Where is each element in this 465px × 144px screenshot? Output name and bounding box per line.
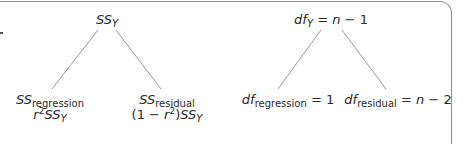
ss-sub: Y <box>196 113 202 124</box>
ss-left-branch <box>52 30 98 89</box>
ss-regression-var: SS <box>16 92 32 107</box>
df-right-branch <box>342 30 386 89</box>
equals: = <box>313 12 332 27</box>
tree-connector-lines <box>0 0 465 144</box>
equals-one: = 1 <box>307 92 334 107</box>
ss-regression-label: SSregression <box>16 92 84 107</box>
df-regression-var: df <box>242 92 255 107</box>
minus-two: − 2 <box>424 92 451 107</box>
ss-var: SS <box>44 107 60 122</box>
ss-residual-node: SSresidual (1 − r2)SSY <box>132 92 203 122</box>
df-total-var: df <box>294 12 307 27</box>
equals: = <box>397 92 416 107</box>
formula-open: (1 − <box>132 107 165 122</box>
n-symbol: n <box>416 92 424 107</box>
ss-residual-label: SSresidual <box>139 92 195 107</box>
ss-regression-formula: r2SSY <box>16 107 84 122</box>
ss-residual-formula: (1 − r2)SSY <box>132 107 203 122</box>
df-left-branch <box>278 30 321 89</box>
ss-sub: Y <box>61 113 67 124</box>
ss-right-branch <box>116 30 161 89</box>
df-regression-sub: regression <box>255 98 307 109</box>
df-residual-sub: residual <box>357 98 397 109</box>
ss-total-var: SS <box>96 12 112 27</box>
df-residual-node: dfresidual = n − 2 <box>344 92 451 107</box>
ss-var: SS <box>180 107 196 122</box>
ss-total-sub: Y <box>112 18 118 29</box>
ss-total-node: SSY <box>96 12 118 27</box>
df-total-node: dfY = n − 1 <box>294 12 368 27</box>
df-residual-var: df <box>344 92 357 107</box>
df-regression-node: dfregression = 1 <box>242 92 334 107</box>
minus-one: − 1 <box>340 12 367 27</box>
ss-regression-node: SSregression r2SSY <box>16 92 84 122</box>
ss-residual-var: SS <box>139 92 155 107</box>
